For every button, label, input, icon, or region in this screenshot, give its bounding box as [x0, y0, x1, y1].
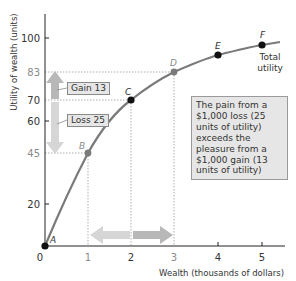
total-utility-label: Total utility: [253, 52, 287, 74]
explanation-note: The pain from a $1,000 loss (25 units of…: [191, 96, 288, 180]
total-utility-label-line2: utility: [253, 63, 287, 74]
total-utility-label-line1: Total: [253, 52, 287, 63]
